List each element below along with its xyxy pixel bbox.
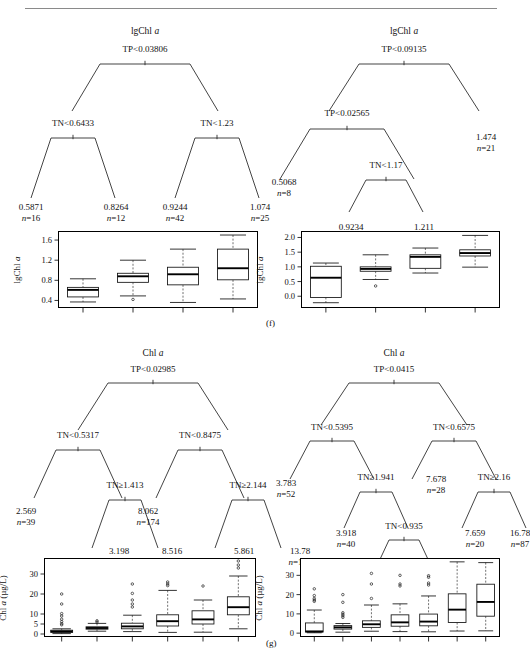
- box-plot-outlier: [131, 603, 134, 606]
- decision-tree-g-left: Chl aTP<0.02985TN<0.5317TN<0.8475TN≥1.41…: [0, 348, 264, 553]
- y-axis-tick-label: 30: [12, 569, 38, 579]
- tree-leaf-value: 2.569: [16, 506, 36, 516]
- y-axis-tick-label: 30: [268, 570, 294, 580]
- box-plot-box: [334, 593, 352, 632]
- box-plot-outlier: [202, 585, 205, 588]
- y-axis-tick-label: 20: [268, 590, 294, 600]
- box-plot-box: [168, 249, 199, 302]
- box-plot-outlier: [342, 593, 345, 596]
- box-plot-outlier: [374, 285, 377, 288]
- y-axis-label: lgChl a: [12, 256, 22, 283]
- tree-split-label: TP<0.02985: [131, 364, 176, 374]
- box-plot-box: [192, 585, 214, 632]
- y-axis-tick-label: 1.5: [269, 247, 295, 257]
- y-axis-label: Chl a (µg/L): [0, 575, 8, 621]
- tree-split-label: TN<0.6575: [433, 422, 475, 432]
- box-plot-box: [121, 583, 143, 632]
- box-plot-box: [460, 235, 491, 267]
- y-axis-tick-label: 0: [268, 628, 294, 638]
- tree-leaf-value: 3.783: [276, 478, 296, 488]
- tree-leaf-count: n=40: [337, 539, 356, 549]
- box-plot-box: [68, 279, 99, 302]
- box-plot-box: [391, 574, 409, 632]
- y-axis-tick-label: 0.5: [269, 277, 295, 287]
- tree-leaf-count: n=28: [427, 485, 446, 495]
- tree-leaf-value: 0.8264: [104, 202, 129, 212]
- y-axis-tick-label: 1.2: [26, 255, 52, 265]
- box-plot-outlier: [370, 572, 373, 575]
- tree-title: Chl a: [143, 348, 164, 358]
- y-axis-tick-label: 0.4: [26, 295, 52, 305]
- boxplot-f-left: 0.40.81.21.6lgChl a: [58, 231, 258, 308]
- y-axis-tick-label: 0.8: [26, 275, 52, 285]
- box-plot-outlier: [131, 592, 134, 595]
- tree-leaf-count: n=52: [277, 489, 296, 499]
- box-plot-box: [410, 248, 441, 273]
- box-plot-box: [51, 593, 73, 634]
- box-plot-box: [118, 260, 149, 301]
- tree-leaf-value: 8.516: [162, 546, 182, 556]
- panel-letter-f: (f): [266, 318, 275, 328]
- y-axis-label: lgChl a: [255, 256, 265, 283]
- box-plot-outlier: [313, 588, 316, 591]
- box-plot-box: [86, 620, 108, 632]
- box-plot-outlier: [166, 584, 169, 587]
- tree-leaf-value: 0.5068: [272, 177, 297, 187]
- box-plot-box: [218, 235, 249, 299]
- decision-tree-f-left: lgChl aTP<0.03806TN<0.6433TN<1.230.5871n…: [0, 22, 264, 222]
- tree-leaf-value: 0.9244: [163, 202, 188, 212]
- box-plot-outlier: [60, 603, 63, 606]
- tree-leaf-value: 8.062: [138, 506, 158, 516]
- tree-leaf-count: n=174: [136, 517, 159, 527]
- box-plot-outlier: [370, 583, 373, 586]
- tree-split-label: TN<1.23: [201, 118, 234, 128]
- box-plot-box: [420, 574, 438, 631]
- tree-leaf-value: 0.5871: [19, 202, 44, 212]
- tree-split-label: TP<0.03806: [123, 44, 168, 54]
- tree-title: lgChl a: [131, 26, 159, 36]
- box-plot-outlier: [132, 298, 135, 301]
- tree-split-label: TN<0.6433: [52, 118, 94, 128]
- decision-tree-g-right: Chl aTP<0.0415TN<0.5395TN<0.6575TN≥1.941…: [264, 348, 527, 553]
- tree-leaf-value: 7.659: [465, 528, 485, 538]
- y-axis-tick-label: 10: [12, 609, 38, 619]
- tree-leaf-count: n=16: [22, 213, 41, 223]
- box-plot-outlier: [131, 606, 134, 609]
- tree-split-label: TN≥1.413: [106, 480, 143, 490]
- box-plot-box: [448, 562, 466, 631]
- box-plot-outlier: [237, 564, 240, 567]
- tree-split-label: TP<0.0415: [374, 364, 414, 374]
- y-axis-tick-label: 0.0: [269, 291, 295, 301]
- boxplot-g-right: 0102030Chl a (µg/L): [300, 558, 500, 637]
- box-plot-box: [305, 588, 323, 633]
- tree-leaf-count: n=39: [17, 517, 36, 527]
- tree-split-label: TP<0.02565: [325, 108, 370, 118]
- tree-leaf-count: n=8: [277, 188, 291, 198]
- box-plot-box: [310, 263, 341, 303]
- box-plot-outlier: [60, 593, 63, 596]
- tree-leaf-count: n=20: [466, 539, 485, 549]
- box-plot-outlier: [237, 560, 240, 563]
- boxplot-g-left: 05102030Chl a (µg/L): [44, 558, 256, 637]
- tree-split-label: TN<0.5395: [311, 422, 353, 432]
- boxplot-f-right: 0.00.51.01.52.0lgChl a: [301, 231, 500, 308]
- tree-split-label: TN≥1.941: [357, 472, 394, 482]
- box-plot-outlier: [313, 594, 316, 597]
- tree-title: lgChl a: [390, 26, 418, 36]
- tree-leaf-value: 16.78: [510, 528, 530, 538]
- box-plot-outlier: [399, 574, 402, 577]
- tree-leaf-count: n=42: [166, 213, 185, 223]
- y-axis-tick-label: 5: [12, 619, 38, 629]
- top-divider-rule: [25, 8, 497, 9]
- tree-leaf-count: n=21: [477, 143, 496, 153]
- tree-leaf-value: 5.861: [234, 546, 254, 556]
- box-plot-box: [227, 560, 249, 629]
- tree-split-label: TN<0.8475: [179, 430, 221, 440]
- y-axis-tick-label: 2.0: [269, 232, 295, 242]
- box-plot-outlier: [342, 601, 345, 604]
- tree-leaf-count: n=87: [511, 539, 530, 549]
- tree-title: Chl a: [384, 348, 405, 358]
- box-plot-box: [360, 255, 391, 287]
- tree-split-label: TN≥2.16: [478, 472, 511, 482]
